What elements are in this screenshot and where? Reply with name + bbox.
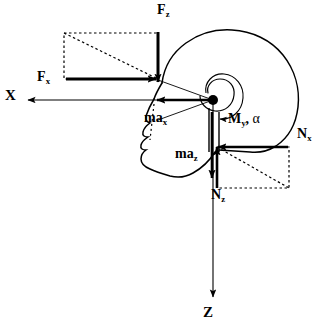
label-normal-z: Nz [211, 188, 225, 202]
head-profile-outline [141, 30, 299, 177]
lower-right-resultant-box [217, 147, 289, 188]
label-axis-x: X [5, 88, 16, 103]
label-ma-x: max [144, 111, 167, 125]
occipital-condyle-pivot [208, 95, 218, 105]
label-moment-my-alpha: My, α [228, 112, 260, 126]
diagram-canvas [0, 0, 326, 329]
coordinate-axes [28, 100, 213, 297]
label-force-z: Fz [157, 3, 169, 17]
label-normal-x: Nx [297, 127, 311, 141]
label-ma-z: maz [175, 147, 198, 161]
free-body-diagram: Fz Fx X Z max maz My, α Nx Nz [0, 0, 326, 329]
upper-left-resultant-box [64, 33, 158, 79]
label-axis-z: Z [203, 305, 213, 320]
label-force-x: Fx [37, 70, 50, 84]
